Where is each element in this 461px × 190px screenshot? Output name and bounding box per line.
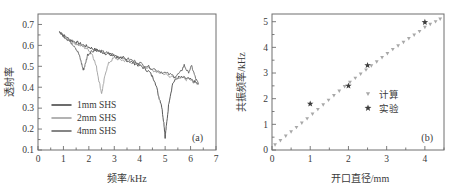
triangle-down-marker bbox=[279, 139, 283, 142]
y-tick-label: 0.3 bbox=[22, 103, 34, 113]
x-tick-label: 0 bbox=[36, 154, 41, 164]
triangle-down-marker bbox=[295, 126, 299, 129]
y-tick-label: 0.5 bbox=[22, 62, 34, 72]
y-tick-label: 4 bbox=[263, 43, 268, 53]
curve-2mm-shs bbox=[60, 32, 199, 94]
plot-frame-b bbox=[272, 14, 444, 150]
x-tick-label: 0 bbox=[270, 154, 275, 164]
triangle-down-marker bbox=[353, 77, 357, 80]
y-tick-label: 0.6 bbox=[22, 41, 34, 51]
y-tick-label: 3 bbox=[263, 68, 268, 78]
triangle-down-marker bbox=[423, 26, 427, 29]
y-tick-label: 0.1 bbox=[22, 145, 34, 155]
triangle-down-marker bbox=[412, 34, 416, 37]
x-tick-label: 1 bbox=[61, 154, 66, 164]
x-axis-ticks-b bbox=[272, 146, 444, 150]
star-marker bbox=[364, 62, 370, 68]
triangle-down-marker bbox=[391, 48, 395, 51]
y-tick-label: 0.2 bbox=[22, 124, 34, 134]
star-marker bbox=[307, 100, 313, 106]
triangle-down-marker bbox=[337, 89, 341, 92]
x-tick-label: 7 bbox=[214, 154, 219, 164]
triangle-down-marker bbox=[359, 73, 363, 76]
triangle-down-marker bbox=[380, 56, 384, 59]
triangle-down-marker bbox=[343, 85, 347, 88]
star-marker bbox=[345, 82, 351, 88]
legend-label-1: 2mm SHS bbox=[77, 113, 116, 123]
triangle-down-marker bbox=[428, 23, 432, 26]
x-tick-label: 3 bbox=[384, 154, 389, 164]
legend-label-0: 1mm SHS bbox=[77, 100, 116, 110]
y-axis-tick-labels-a: 0.10.20.30.40.50.60.7 bbox=[22, 20, 34, 156]
x-tick-label: 4 bbox=[423, 154, 428, 164]
triangle-down-marker bbox=[300, 122, 304, 125]
panel-a-svg: 01234567 0.10.20.30.40.50.60.7 1mm SHS2m… bbox=[0, 0, 230, 190]
x-tick-label: 2 bbox=[86, 154, 91, 164]
figure-container: 01234567 0.10.20.30.40.50.60.7 1mm SHS2m… bbox=[0, 0, 461, 190]
chart-panel-b: 01234 012345 计算实验 开口直径/mm 共振频率/kHz (b) bbox=[230, 0, 461, 190]
triangle-down-marker bbox=[327, 99, 331, 102]
x-axis-ticks-a bbox=[38, 146, 216, 150]
x-tick-label: 1 bbox=[308, 154, 313, 164]
y-tick-label: 0.4 bbox=[22, 83, 34, 93]
triangle-down-marker bbox=[418, 30, 422, 33]
triangle-down-marker bbox=[289, 130, 293, 133]
x-tick-label: 2 bbox=[346, 154, 351, 164]
y-tick-label: 1 bbox=[263, 120, 268, 130]
x-tick-label: 5 bbox=[163, 154, 168, 164]
y-axis-label-b: 共振频率/kHz bbox=[235, 52, 247, 112]
panel-tag-b: (b) bbox=[421, 132, 433, 144]
triangle-down-marker bbox=[364, 68, 368, 71]
legend-label-0: 计算 bbox=[379, 89, 399, 100]
legend-star-icon bbox=[365, 104, 372, 111]
y-tick-label: 0 bbox=[263, 145, 268, 155]
triangle-down-marker bbox=[396, 44, 400, 47]
y-axis-tick-labels-b: 012345 bbox=[263, 17, 268, 155]
legend-a: 1mm SHS2mm SHS4mm SHS bbox=[52, 100, 116, 136]
curve-4mm-shs bbox=[60, 32, 199, 83]
triangle-down-marker bbox=[375, 60, 379, 63]
plot-frame-a bbox=[38, 14, 216, 150]
legend-label-2: 4mm SHS bbox=[77, 126, 116, 136]
triangle-down-marker bbox=[305, 117, 309, 120]
y-tick-label: 2 bbox=[263, 94, 268, 104]
x-tick-label: 6 bbox=[188, 154, 193, 164]
y-axis-ticks-b bbox=[272, 22, 276, 150]
triangle-down-marker bbox=[438, 18, 442, 21]
x-tick-label: 3 bbox=[112, 154, 117, 164]
triangle-down-marker bbox=[284, 135, 288, 138]
triangle-down-marker bbox=[386, 52, 390, 55]
y-axis-label-a: 透射率 bbox=[3, 67, 15, 97]
x-axis-label-a: 频率/kHz bbox=[107, 172, 147, 184]
panel-tag-a: (a) bbox=[192, 132, 203, 144]
triangle-down-marker bbox=[332, 94, 336, 97]
triangle-down-marker bbox=[316, 108, 320, 111]
x-tick-label: 4 bbox=[137, 154, 142, 164]
x-axis-tick-labels-a: 01234567 bbox=[36, 154, 219, 164]
legend-label-1: 实验 bbox=[379, 103, 399, 114]
legend-b: 计算实验 bbox=[365, 89, 399, 114]
y-tick-label: 5 bbox=[263, 17, 268, 27]
y-tick-label: 0.7 bbox=[22, 20, 34, 30]
y-axis-ticks-a bbox=[38, 24, 42, 150]
triangle-down-marker bbox=[407, 37, 411, 40]
star-marker bbox=[422, 19, 428, 25]
triangle-down-marker bbox=[273, 143, 277, 146]
x-axis-tick-labels-b: 01234 bbox=[270, 154, 428, 164]
triangle-down-marker bbox=[434, 20, 438, 23]
triangle-down-marker bbox=[321, 103, 325, 106]
chart-panel-a: 01234567 0.10.20.30.40.50.60.7 1mm SHS2m… bbox=[0, 0, 230, 190]
legend-triangle-down-icon bbox=[366, 92, 370, 96]
triangle-down-marker bbox=[311, 113, 315, 116]
x-axis-label-b: 开口直径/mm bbox=[331, 172, 390, 184]
panel-b-svg: 01234 012345 计算实验 开口直径/mm 共振频率/kHz (b) bbox=[230, 0, 461, 190]
triangle-down-marker bbox=[402, 41, 406, 44]
data-points-b bbox=[273, 18, 442, 147]
